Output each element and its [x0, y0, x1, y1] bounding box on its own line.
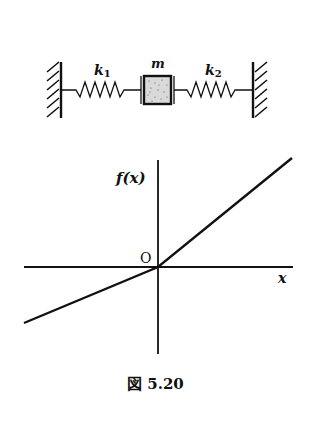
- figure-canvas: k1 m k2 f(x) x O 図 5.20: [0, 0, 317, 423]
- k2-label: k2: [205, 62, 222, 79]
- y-axis-label: f(x): [115, 169, 146, 187]
- origin-label: O: [140, 250, 151, 266]
- left-spring-icon: [61, 82, 141, 97]
- right-spring-icon: [174, 82, 253, 97]
- mass-block: [141, 76, 174, 104]
- k1-label: k1: [94, 62, 111, 79]
- right-wall-icon: [253, 62, 267, 118]
- force-graph: [24, 158, 293, 354]
- mass-label: m: [151, 56, 165, 71]
- figure-caption: 図 5.20: [127, 375, 184, 393]
- x-axis-label: x: [277, 270, 287, 286]
- left-wall-icon: [47, 62, 61, 118]
